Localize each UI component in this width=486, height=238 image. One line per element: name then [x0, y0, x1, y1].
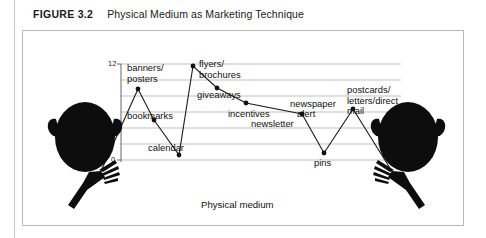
y-axis-label-max: 12 [108, 59, 116, 68]
label-line: giveaways [197, 90, 241, 101]
figure-frame: 12 0 Physical medium banners/postersbook… [22, 30, 464, 226]
data-point-marker [191, 64, 196, 69]
label-line: alert [297, 109, 315, 120]
data-label-bookmarks: bookmarks [127, 111, 173, 122]
data-label-giveaways: giveaways [197, 90, 241, 101]
label-line: brochures [199, 70, 241, 81]
label-line: postcards/ [347, 85, 398, 96]
data-label-alert: alert [297, 109, 315, 120]
label-line: pins [314, 158, 331, 169]
page-margin-rule [14, 0, 15, 238]
data-point-marker [136, 87, 141, 92]
label-line: posters [127, 74, 163, 85]
label-line: banners/ [127, 63, 163, 74]
y-axis-label-min: 0 [111, 155, 115, 164]
label-line: flyers/ [199, 59, 241, 70]
data-point-marker [244, 101, 249, 106]
x-axis-title: Physical medium [201, 199, 274, 210]
figure-title: Physical Medium as Marketing Technique [107, 8, 304, 20]
label-line: calendar [148, 143, 184, 154]
label-line: mail [347, 106, 398, 117]
data-label-banners-posters: banners/posters [127, 63, 163, 84]
data-point-marker [322, 151, 327, 156]
data-label-newsletter: newsletter [251, 119, 294, 130]
data-label-postcards-letters-direct-mail: postcards/letters/directmail [347, 85, 398, 117]
chart-canvas [23, 31, 463, 225]
data-label-pins: pins [314, 158, 331, 169]
figure-page: FIGURE 3.2Physical Medium as Marketing T… [0, 0, 486, 238]
figure-caption: FIGURE 3.2Physical Medium as Marketing T… [33, 8, 304, 20]
data-label-calendar: calendar [148, 143, 184, 154]
figure-number: FIGURE 3.2 [33, 8, 93, 20]
data-label-flyers-brochures: flyers/brochures [199, 59, 241, 80]
label-line: newsletter [251, 119, 294, 130]
label-line: bookmarks [127, 111, 173, 122]
